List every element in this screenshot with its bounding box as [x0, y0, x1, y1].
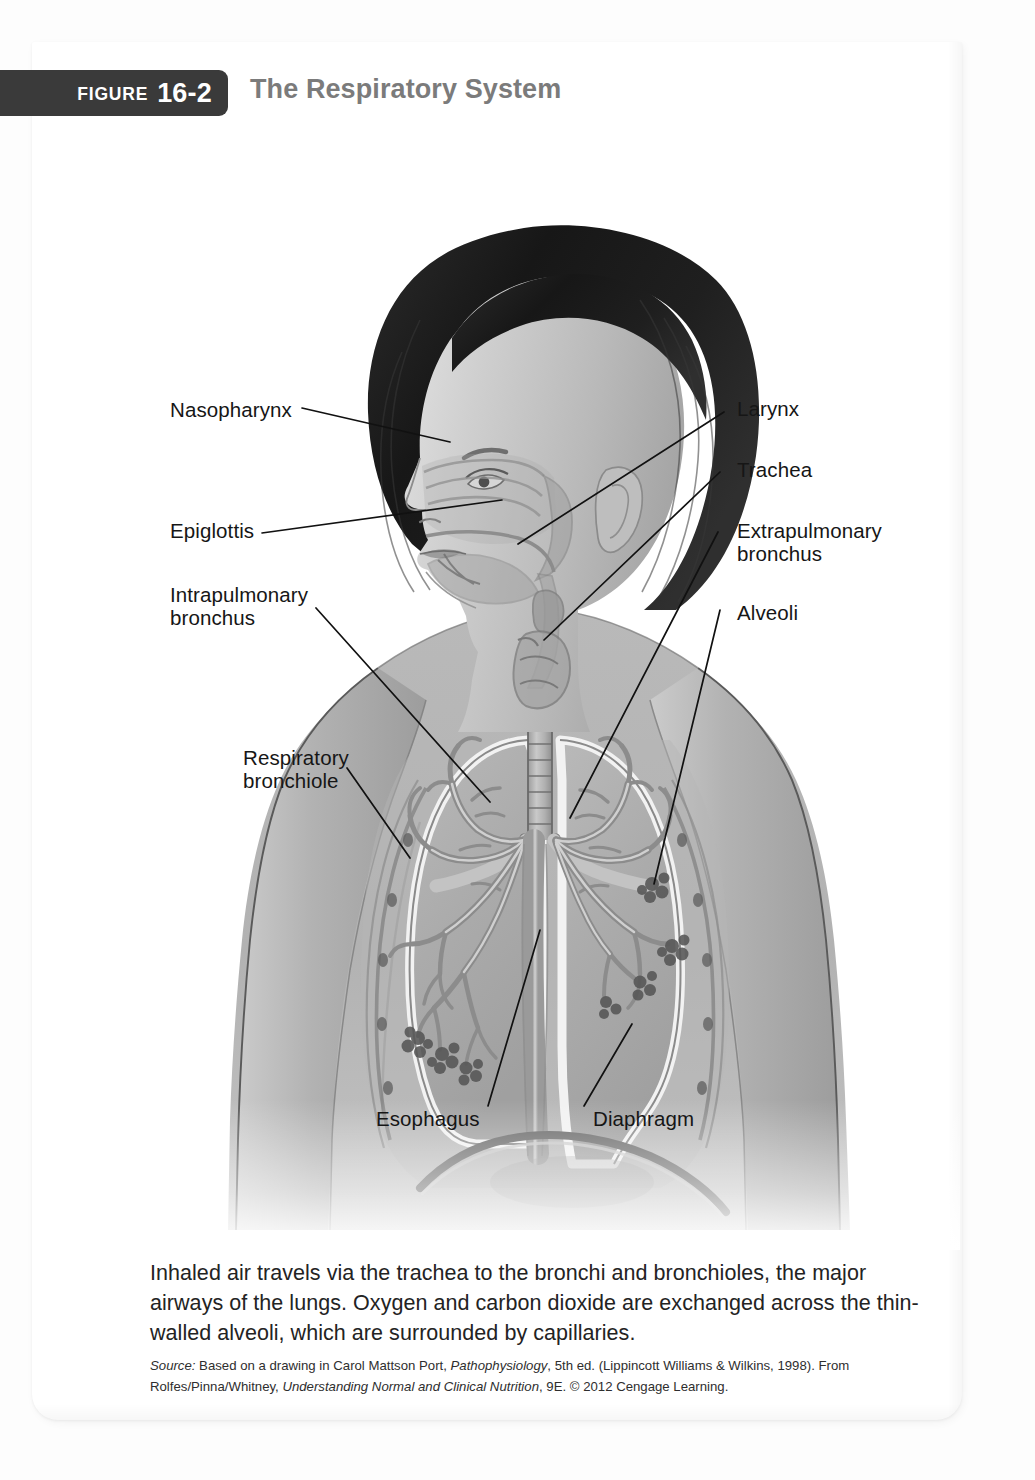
label-extrapulmonary-line1: Extrapulmonary [737, 519, 882, 542]
anatomy-svg [120, 140, 960, 1250]
source-italic-1: Pathophysiology [451, 1358, 548, 1373]
caption-body: Inhaled air travels via the trachea to t… [150, 1258, 940, 1348]
label-nasopharynx: Nasopharynx [170, 398, 292, 421]
caption-block: Inhaled air travels via the trachea to t… [150, 1258, 940, 1397]
source-part-1: Based on a drawing in Carol Mattson Port… [195, 1358, 450, 1373]
label-larynx: Larynx [737, 397, 799, 420]
nasal-cavity-fill [422, 454, 556, 545]
source-italic-2: Understanding Normal and Clinical Nutrit… [282, 1379, 539, 1394]
caption-source: Source: Based on a drawing in Carol Matt… [150, 1355, 940, 1397]
bottom-fade [120, 1100, 960, 1250]
label-respiratory-line1: Respiratory [243, 746, 349, 769]
larynx [514, 631, 571, 708]
label-intrapulmonary-line2: bronchus [170, 606, 255, 629]
figure-tab-number: 16-2 [157, 78, 212, 109]
label-respiratory-line2: bronchiole [243, 769, 339, 792]
label-esophagus: Esophagus [376, 1107, 479, 1130]
respiratory-system-illustration [120, 140, 960, 1250]
figure-tab-word: FIGURE [77, 84, 148, 105]
label-diaphragm: Diaphragm [593, 1107, 694, 1130]
label-intrapulmonary-line1: Intrapulmonary [170, 583, 308, 606]
epiglottis [533, 590, 564, 633]
label-trachea: Trachea [737, 458, 812, 481]
label-epiglottis: Epiglottis [170, 519, 254, 542]
figure-header: FIGURE 16-2 The Respiratory System [0, 70, 1035, 116]
figure-number-tab: FIGURE 16-2 [0, 70, 228, 116]
label-alveoli: Alveoli [737, 601, 798, 624]
label-extrapulmonary-line2: bronchus [737, 542, 822, 565]
figure-title: The Respiratory System [250, 74, 561, 105]
source-part-3: , 9E. © 2012 Cengage Learning. [539, 1379, 728, 1394]
source-label: Source: [150, 1358, 195, 1373]
